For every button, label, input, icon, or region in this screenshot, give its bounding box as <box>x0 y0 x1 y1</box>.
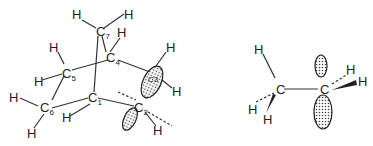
atom-c3: C3 <box>148 75 159 84</box>
atom-c4: C4 <box>106 50 120 67</box>
hydrogen: H <box>248 102 257 117</box>
hydrogen: H <box>263 112 272 127</box>
diagram-canvas: C7 C4 C5 C1 C6 C2 C3 H H H H H H H H H H… <box>0 0 373 146</box>
hydrogen: H <box>72 7 81 22</box>
atom-c5: C5 <box>62 66 76 83</box>
hydrogen: H <box>124 7 133 22</box>
right-molecule: C C H H H H H <box>248 42 367 129</box>
left-molecule: C7 C4 C5 C1 C6 C2 C3 H H H H H H H H H H… <box>9 7 181 141</box>
atom-c2: C2 <box>134 100 148 117</box>
atom-c1: C1 <box>88 90 102 107</box>
p-orbital-top-lobe <box>315 55 327 77</box>
hydrogen: H <box>62 110 71 125</box>
hydrogen: H <box>9 90 18 105</box>
hydrogen: H <box>346 62 355 77</box>
atom-c6: C6 <box>40 100 54 117</box>
hydrogen: H <box>153 123 162 138</box>
hydrogen: H <box>49 40 58 55</box>
hydrogen: H <box>166 40 175 55</box>
hydrogen: H <box>358 74 367 89</box>
p-orbital-bottom-lobe <box>314 95 332 129</box>
carbon-left: C <box>276 82 285 97</box>
carbon-right: C <box>320 82 329 97</box>
hydrogen: H <box>34 74 43 89</box>
hydrogen: H <box>254 42 263 57</box>
hydrogen: H <box>117 25 126 40</box>
hydrogen: H <box>27 126 36 141</box>
hydrogen: H <box>172 84 181 99</box>
atom-c7: C7 <box>96 24 110 41</box>
